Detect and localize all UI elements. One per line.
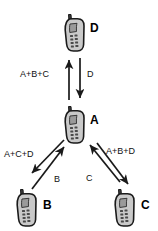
node-b-phone[interactable]: [14, 188, 40, 228]
node-c-phone[interactable]: [112, 188, 138, 228]
edge-label-b-to-a: B: [54, 175, 60, 184]
node-a-phone[interactable]: [62, 105, 88, 145]
edge-label-c-to-a: C: [86, 174, 93, 183]
node-label-b: B: [43, 199, 52, 211]
mobile-phone-icon: [112, 188, 138, 228]
node-label-c: C: [141, 199, 150, 211]
network-topology-diagram: D A: [0, 0, 158, 231]
edge-label-d-to-a: D: [87, 70, 94, 79]
mobile-phone-icon: [62, 105, 88, 145]
edge-label-a-to-d: A+B+C: [20, 70, 49, 79]
edge-label-a-to-c: A+B+D: [106, 147, 135, 156]
node-d-phone[interactable]: [62, 13, 88, 53]
node-label-d: D: [90, 22, 99, 34]
mobile-phone-icon: [14, 188, 40, 228]
edge-label-a-to-b: A+C+D: [4, 150, 34, 159]
mobile-phone-icon: [62, 13, 88, 53]
node-label-a: A: [90, 114, 99, 126]
